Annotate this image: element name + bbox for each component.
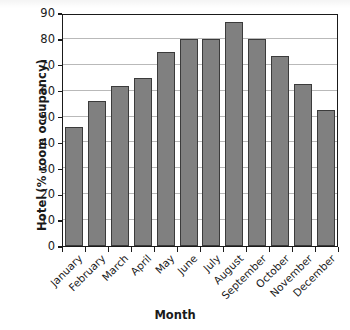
y-axis-tick-label: 90 — [40, 8, 58, 20]
bar-series — [63, 15, 337, 246]
plot-area — [62, 14, 338, 247]
bar — [157, 52, 175, 246]
bar — [134, 78, 152, 246]
y-axis-tick-label: 0 — [48, 241, 58, 253]
y-axis-tick-label: 10 — [40, 215, 58, 227]
bar — [248, 39, 266, 246]
x-axis-tick-mark — [338, 247, 339, 252]
y-axis-tick-label: 80 — [40, 34, 58, 46]
bar-chart: Hotel (% room occupancy) 010203040506070… — [0, 0, 350, 330]
x-axis-title: Month — [0, 308, 350, 322]
y-axis-ticks: 0102030405060708090 — [0, 14, 62, 247]
bar — [111, 86, 129, 247]
y-axis-tick-label: 70 — [40, 60, 58, 72]
y-axis-tick-label: 30 — [40, 164, 58, 176]
bar — [225, 22, 243, 246]
x-axis-labels: JanuaryFebruaryMarchAprilMayJuneJulyAugu… — [62, 252, 338, 302]
bar — [294, 84, 312, 246]
bar — [180, 39, 198, 246]
bar — [202, 39, 220, 246]
bar — [65, 127, 83, 246]
bar — [88, 101, 106, 246]
bar — [271, 56, 289, 246]
y-axis-tick-label: 40 — [40, 138, 58, 150]
y-axis-tick-label: 50 — [40, 112, 58, 124]
y-axis-tick-label: 20 — [40, 189, 58, 201]
y-axis-tick-label: 60 — [40, 86, 58, 98]
bar — [317, 110, 335, 246]
